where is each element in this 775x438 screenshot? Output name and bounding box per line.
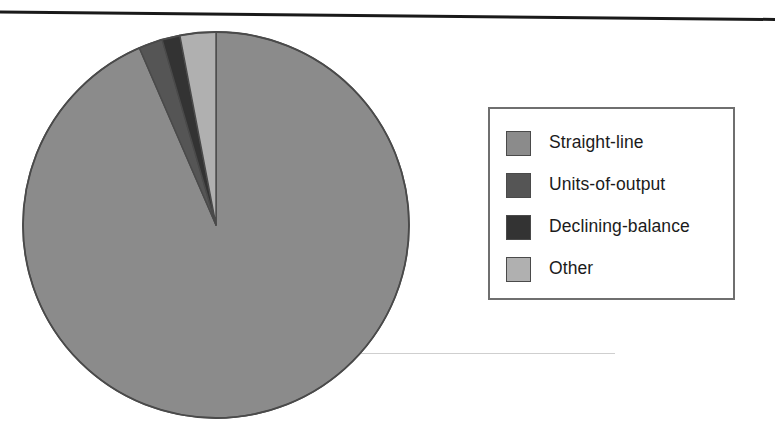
- legend-label-declining-balance: Declining-balance: [549, 218, 690, 236]
- legend-item-units-of-output[interactable]: Units-of-output: [506, 164, 733, 206]
- legend-item-straight-line[interactable]: Straight-line: [506, 122, 733, 164]
- top-divider-rule: [0, 8, 775, 22]
- legend: Straight-line Units-of-output Declining-…: [488, 107, 735, 300]
- pie-plot-area: [20, 26, 420, 428]
- legend-label-units-of-output: Units-of-output: [549, 176, 665, 194]
- legend-swatch-declining-balance: [506, 215, 531, 240]
- legend-label-other: Other: [549, 260, 593, 278]
- pie-chart-figure: Straight-line Units-of-output Declining-…: [0, 0, 775, 438]
- legend-swatch-units-of-output: [506, 173, 531, 198]
- pie-slice-group: [23, 32, 409, 418]
- legend-item-declining-balance[interactable]: Declining-balance: [506, 206, 733, 248]
- legend-label-straight-line: Straight-line: [549, 134, 644, 152]
- legend-swatch-straight-line: [506, 131, 531, 156]
- legend-swatch-other: [506, 257, 531, 282]
- pie-svg: [20, 26, 420, 428]
- legend-item-other[interactable]: Other: [506, 248, 733, 290]
